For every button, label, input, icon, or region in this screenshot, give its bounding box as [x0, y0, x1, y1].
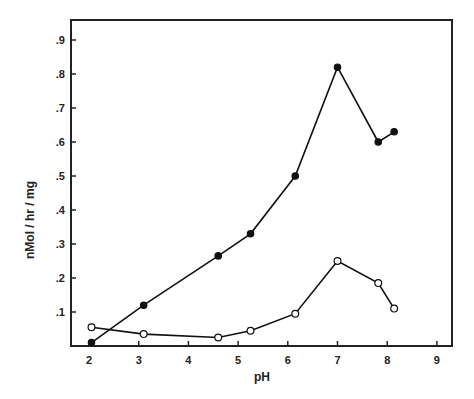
open-data-point [215, 334, 222, 341]
y-tick-label: .9 [56, 34, 65, 46]
y-tick-label: .5 [56, 170, 65, 182]
open-data-point [247, 327, 254, 334]
filled-data-point [375, 139, 381, 145]
x-tick-label: 6 [285, 354, 291, 366]
filled-data-point [88, 339, 94, 345]
open-data-point [292, 310, 299, 317]
plot-border [71, 20, 452, 346]
open-data-point [391, 305, 398, 312]
open-data-point [88, 324, 95, 331]
filled-data-point [391, 129, 397, 135]
x-tick-label: 4 [185, 354, 192, 366]
series-open-circle [88, 258, 397, 341]
y-tick-label: .8 [56, 68, 65, 80]
open-data-point [140, 331, 147, 338]
x-axis: 23456789 [86, 341, 440, 366]
y-tick-label: .3 [56, 238, 65, 250]
x-tick-label: 7 [334, 354, 340, 366]
x-tick-label: 8 [384, 354, 390, 366]
filled-data-point [247, 231, 253, 237]
y-tick-label: .6 [56, 136, 65, 148]
x-axis-title: pH [254, 370, 270, 384]
x-tick-label: 2 [86, 354, 92, 366]
filled-data-point [215, 253, 221, 259]
filled-data-point [292, 173, 298, 179]
series-line [91, 67, 394, 342]
y-axis-title: nMol / hr / mg [23, 181, 37, 259]
y-axis: .1.2.3.4.5.6.7.8.9 [56, 34, 76, 318]
y-tick-label: .2 [56, 272, 65, 284]
open-data-point [375, 280, 382, 287]
open-data-point [334, 258, 341, 265]
y-tick-label: .7 [56, 102, 65, 114]
series-line [91, 261, 394, 338]
plot-frame [71, 20, 452, 346]
x-tick-label: 3 [136, 354, 142, 366]
series-layer [88, 64, 397, 346]
series-filled-circle [88, 64, 397, 346]
y-tick-label: .1 [56, 306, 65, 318]
x-tick-label: 9 [434, 354, 440, 366]
line-chart: 23456789 .1.2.3.4.5.6.7.8.9 pH nMol / hr… [0, 0, 474, 399]
filled-data-point [334, 64, 340, 70]
filled-data-point [140, 302, 146, 308]
x-tick-label: 5 [235, 354, 241, 366]
y-tick-label: .4 [56, 204, 66, 216]
